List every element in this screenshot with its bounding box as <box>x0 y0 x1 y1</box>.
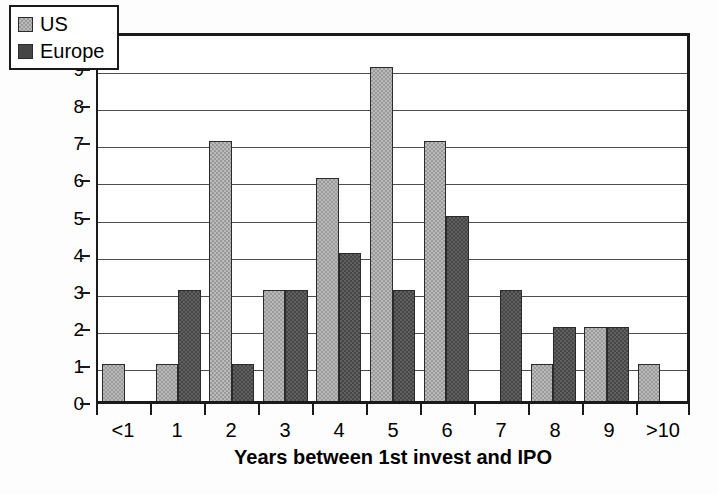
bar-us <box>584 327 606 401</box>
bar-us <box>209 141 231 401</box>
x-tick-label: 1 <box>150 416 204 444</box>
bar-europe <box>607 327 629 401</box>
legend-label: US <box>40 14 68 34</box>
x-tick-label: 6 <box>420 416 474 444</box>
bar-europe <box>232 364 254 401</box>
bar-us <box>316 178 338 401</box>
x-tick-label: <1 <box>96 416 150 444</box>
x-axis-ticklabels: <1123456789>10 <box>96 416 690 444</box>
x-tick-mark <box>688 404 690 415</box>
y-tick-mark <box>80 106 90 108</box>
chart-figure: Number 012345678910 <1123456789>10 Years… <box>0 0 718 495</box>
y-tick-mark <box>80 292 90 294</box>
y-tick-mark <box>80 218 90 220</box>
x-tick-mark <box>528 404 530 415</box>
y-tick-mark <box>80 143 90 145</box>
bar-category-group <box>152 36 206 401</box>
y-tick-mark <box>80 180 90 182</box>
bar-category-group <box>312 36 366 401</box>
bar-category-group <box>633 36 687 401</box>
bar-category-group <box>526 36 580 401</box>
x-tick-label: 4 <box>312 416 366 444</box>
bar-category-group <box>473 36 527 401</box>
bar-us <box>370 67 392 401</box>
bar-europe <box>446 216 468 402</box>
legend-swatch-icon <box>18 17 33 32</box>
x-tick-label: >10 <box>636 416 690 444</box>
legend-item-europe: Europe <box>18 39 105 63</box>
bar-us <box>263 290 285 401</box>
x-tick-mark <box>204 404 206 415</box>
y-tick-mark <box>80 403 90 405</box>
x-tick-mark <box>582 404 584 415</box>
x-tick-label: 3 <box>258 416 312 444</box>
x-tick-label: 9 <box>582 416 636 444</box>
y-tick-mark <box>80 329 90 331</box>
bar-category-group <box>205 36 259 401</box>
bar-europe <box>500 290 522 401</box>
bar-category-group <box>98 36 152 401</box>
bar-europe <box>178 290 200 401</box>
x-tick-mark <box>636 404 638 415</box>
bar-us <box>531 364 553 401</box>
bar-europe <box>553 327 575 401</box>
x-tick-label: 5 <box>366 416 420 444</box>
x-tick-mark <box>258 404 260 415</box>
y-tick-mark <box>80 255 90 257</box>
x-tick-label: 2 <box>204 416 258 444</box>
bar-group <box>98 36 687 401</box>
bar-europe <box>285 290 307 401</box>
x-tick-mark <box>420 404 422 415</box>
x-tick-mark <box>474 404 476 415</box>
x-tick-mark <box>150 404 152 415</box>
y-axis-ticks: 012345678910 <box>46 33 90 404</box>
x-axis-tickmarks <box>96 404 690 416</box>
bar-us <box>424 141 446 401</box>
bar-category-group <box>419 36 473 401</box>
x-tick-label: 8 <box>528 416 582 444</box>
plot-area <box>96 33 690 404</box>
legend-swatch-icon <box>18 44 33 59</box>
y-tick-mark <box>80 366 90 368</box>
x-axis-title: Years between 1st invest and IPO <box>96 446 690 469</box>
bar-europe <box>339 253 361 401</box>
bar-category-group <box>580 36 634 401</box>
bar-us <box>102 364 124 401</box>
bar-us <box>638 364 660 401</box>
x-tick-mark <box>96 404 98 415</box>
bar-category-group <box>366 36 420 401</box>
bar-category-group <box>259 36 313 401</box>
x-tick-mark <box>312 404 314 415</box>
x-tick-mark <box>366 404 368 415</box>
bar-europe <box>393 290 415 401</box>
legend-item-us: US <box>18 12 105 36</box>
bar-us <box>156 364 178 401</box>
legend-label: Europe <box>40 41 105 61</box>
x-tick-label: 7 <box>474 416 528 444</box>
chart-legend: USEurope <box>9 5 119 70</box>
